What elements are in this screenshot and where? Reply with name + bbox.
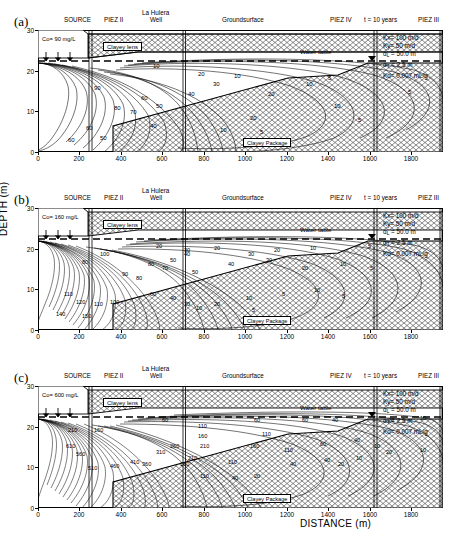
svg-text:20: 20 [274,247,280,253]
param-ky-a: Ky= 50 m/d [383,42,419,50]
piez2-label-c: PIEZ II [104,372,123,379]
svg-text:40: 40 [232,475,238,481]
panel-b: (b) SOURCE PIEZ II La Hulera Well Ground… [0,184,458,358]
plot-area-c: 60 110 160 210 60 60 40 20 10 110 160 11… [38,386,443,508]
svg-text:60: 60 [162,417,168,423]
svg-text:10: 10 [310,245,316,251]
piez3-label-c: PIEZ III [418,372,439,379]
svg-text:40: 40 [184,251,190,257]
svg-text:20: 20 [386,449,392,455]
svg-text:30: 30 [184,301,190,307]
svg-text:610: 610 [66,443,75,449]
svg-text:160: 160 [198,433,207,439]
time-label-a: t = 10 years [364,16,397,23]
ytick-label-c-1: 10 [27,464,34,471]
source-label-c: SOURCE [64,372,91,379]
xtick-label-b-3: 600 [157,333,168,340]
svg-text:70: 70 [162,265,168,271]
params-box-a: Kx= 100 m/d Ky= 50 m/d αL = 50.0 m αT = … [383,34,419,71]
param-kx-a: Kx= 100 m/d [383,34,419,42]
svg-text:80: 80 [148,261,154,267]
groundsurface-label-a: Groundsurface [222,16,264,23]
water-table-label-c: Water table [300,404,331,411]
x-axis-title: DISTANCE (m) [300,518,371,529]
params-box-b: Kx= 100 m/d Ky= 50 m/d αL = 50.0 m αT = … [383,212,419,249]
groundsurface-label-c: Groundsurface [222,372,264,379]
svg-text:90: 90 [122,271,128,277]
svg-text:10: 10 [234,73,241,79]
y-axis-a: 0 10 20 30 [20,30,38,152]
clayey-package-label-b: Clayey Package [243,316,291,325]
clayey-lens-label-c: Clayey lens [103,398,142,407]
svg-text:100: 100 [110,299,119,305]
piez3-label-a: PIEZ III [418,16,439,23]
param-alphaL-a: αL = 50.0 m [383,50,419,60]
svg-text:20: 20 [268,91,275,97]
ytick-label-a-3: 30 [27,27,34,34]
piez3-label-b: PIEZ III [418,194,439,201]
panel-c: (c) SOURCE PIEZ II La Hulera Well Ground… [0,362,458,536]
svg-text:30: 30 [266,257,272,263]
svg-text:110: 110 [228,459,237,465]
svg-text:40: 40 [354,437,360,443]
xtick-label-a-1: 200 [74,155,85,162]
svg-text:30: 30 [213,81,220,87]
xtick-label-b-4: 800 [199,333,210,340]
svg-text:10: 10 [340,261,346,267]
xtick-label-b-6: 1200 [280,333,294,340]
svg-text:80: 80 [82,259,88,265]
param-alphaT-b: αT = 2.5 m [383,239,419,249]
param-alphaL-b: αL = 50.0 m [383,228,419,238]
params-box-c: Kx= 100 m/d Ky= 50 m/d αL = 50.0 m αT = … [383,390,419,427]
param-ky-b: Ky= 50 m/d [383,220,419,228]
svg-text:80: 80 [136,275,142,281]
ytick-label-a-2: 20 [27,68,34,75]
source-conc-b: Co= 160 mg/L [42,214,79,220]
svg-text:160: 160 [250,443,259,449]
ytick-label-a-1: 10 [27,108,34,115]
param-kd-b: Kd= 0.007 mL/g [383,250,428,257]
svg-text:510: 510 [88,465,97,471]
source-label-a: SOURCE [64,16,91,23]
svg-text:410: 410 [130,459,139,465]
svg-text:60: 60 [302,417,308,423]
param-kd-a: Kd= 0.007 mL/g [383,72,428,79]
time-label-c: t = 10 years [364,372,397,379]
xtick-label-a-9: 1800 [404,155,418,162]
param-kd-c: Kd= 0.007 mL/g [383,428,428,435]
svg-text:460: 460 [110,463,119,469]
param-alphaT-a: αT = 2.5 m [383,61,419,71]
xtick-label-c-2: 400 [116,511,127,518]
source-conc-a: Co= 90 mg/L [42,36,75,42]
svg-text:5: 5 [370,265,373,271]
svg-text:50: 50 [170,257,176,263]
source-label-b: SOURCE [64,194,91,201]
svg-text:20: 20 [198,71,205,77]
svg-text:210: 210 [68,427,77,433]
svg-text:10: 10 [196,305,202,311]
xtick-label-a-8: 1600 [363,155,377,162]
svg-text:5: 5 [342,293,345,299]
svg-text:20: 20 [254,473,260,479]
figure-root: (a) SOURCE PIEZ II La Hulera Well Ground… [0,0,458,537]
xtick-label-b-7: 1400 [321,333,335,340]
svg-text:60: 60 [150,291,156,297]
panel-a: (a) SOURCE PIEZ II La Hulera Well Ground… [0,6,458,180]
piez4-label-b: PIEZ IV [330,194,352,201]
svg-text:40: 40 [332,417,338,423]
svg-text:210: 210 [200,443,209,449]
param-alphaL-c: αL = 50.0 m [383,406,419,416]
svg-text:20: 20 [250,115,257,121]
ytick-label-c-3: 30 [27,383,34,390]
svg-text:110: 110 [64,291,73,297]
svg-text:10: 10 [356,455,362,461]
param-alphaT-c: αT = 2.5 m [383,417,419,427]
well-label-a-line1: La Hulera [142,9,169,16]
svg-text:120: 120 [76,299,85,305]
xtick-label-c-9: 1800 [404,511,418,518]
piez2-label-a: PIEZ II [104,16,123,23]
ytick-label-a-0: 0 [30,149,34,156]
ytick-label-c-0: 0 [30,505,34,512]
svg-text:100: 100 [100,251,109,257]
svg-text:60: 60 [68,137,75,143]
